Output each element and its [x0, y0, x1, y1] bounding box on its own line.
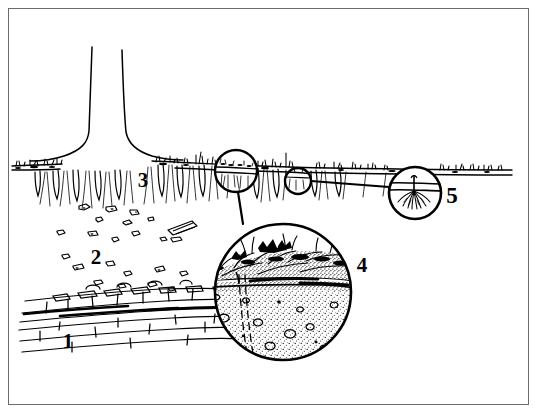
rock-fragments [57, 204, 197, 291]
label-1: 1 [63, 329, 74, 353]
callout-ground-surface[interactable] [214, 149, 259, 194]
grass-tufts [16, 152, 502, 170]
figure-drawing: 1 2 3 4 5 [0, 0, 539, 415]
bedrock-dark-seam [24, 306, 236, 316]
callout-small-surface[interactable] [284, 167, 313, 196]
detail-litter-layer [212, 234, 356, 281]
fine-roots [40, 165, 386, 209]
callout-detail-large[interactable] [212, 222, 356, 364]
tree-trunk [30, 47, 183, 161]
label-3: 3 [138, 168, 149, 192]
callout-leader-lines [238, 181, 389, 224]
detail-mineral-soil [213, 286, 356, 364]
figure-container: 1 2 3 4 5 [0, 0, 539, 415]
label-4: 4 [357, 253, 368, 277]
label-2: 2 [91, 245, 102, 269]
label-5: 5 [446, 183, 458, 208]
callout-seedling[interactable] [388, 166, 443, 221]
bedrock-strata [19, 280, 244, 352]
